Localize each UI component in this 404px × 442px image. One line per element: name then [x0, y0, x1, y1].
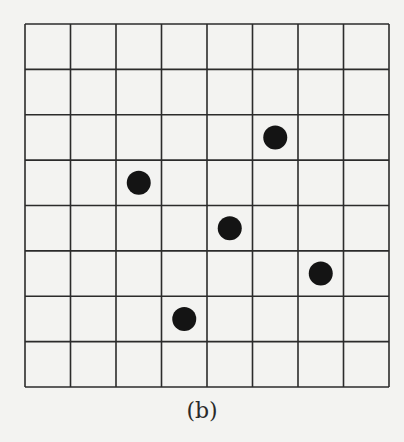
grid-dots — [127, 125, 333, 331]
grid-figure: (b) — [0, 0, 404, 442]
figure-caption: (b) — [0, 398, 404, 423]
grid-dot — [309, 262, 333, 286]
grid-board — [0, 0, 404, 442]
grid-dot — [263, 125, 287, 149]
grid-dot — [172, 307, 196, 331]
grid-dot — [218, 216, 242, 240]
grid-dot — [127, 171, 151, 195]
grid-lines — [25, 24, 389, 387]
